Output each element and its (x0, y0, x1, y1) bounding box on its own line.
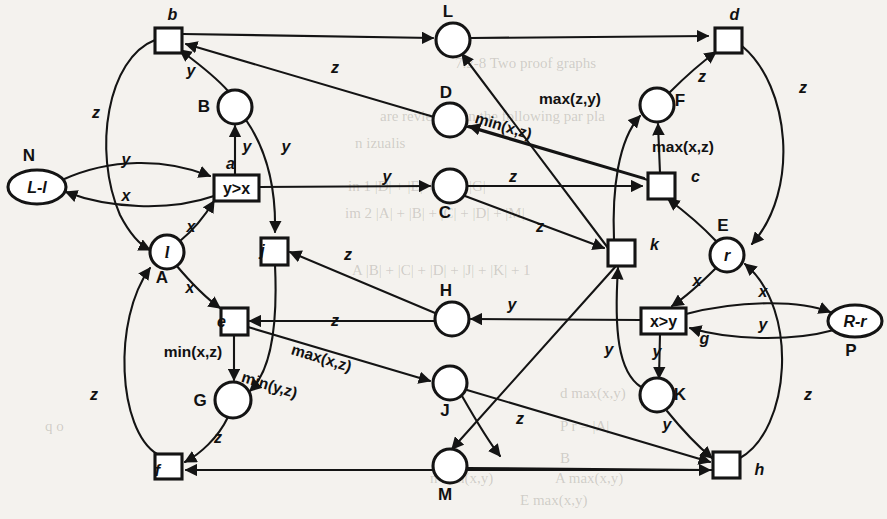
place-N[interactable]: L-lN (8, 146, 66, 204)
edge-A-to-a (180, 201, 214, 241)
place-F[interactable]: F (640, 88, 685, 122)
place-tag-L: L (443, 2, 453, 21)
arc-label: y (652, 343, 663, 360)
place-shape-K (640, 378, 674, 412)
arc-label: max(z,y) (539, 90, 601, 107)
arc-label: z (697, 68, 706, 85)
place-tag-E: E (717, 216, 728, 235)
transition-tag-e: e (217, 313, 226, 330)
arc-label: min(x,z) (164, 343, 223, 360)
transition-guard-a: y>x (223, 180, 250, 197)
edge-a-to-C (259, 186, 430, 187)
edge-a-to-N (66, 192, 214, 206)
transition-tag-j: j (258, 242, 265, 259)
place-A[interactable]: lA (150, 235, 184, 287)
edge-b-to-L (183, 34, 433, 38)
place-shape-J (433, 366, 467, 400)
place-tag-M: M (438, 485, 452, 504)
transition-guard-g: x>y (650, 313, 677, 330)
transition-tag-d: d (730, 6, 741, 23)
transition-shape-b (155, 28, 182, 53)
transition-tag-c: c (691, 168, 700, 185)
place-G[interactable]: G (193, 382, 251, 418)
place-shape-G (215, 382, 251, 418)
place-inner-label-N: L-l (27, 179, 47, 196)
place-tag-A: A (156, 268, 168, 287)
transition-a[interactable]: y>xa (214, 155, 259, 201)
transition-tag-b: b (168, 6, 178, 23)
arc-label: y (604, 341, 615, 358)
place-K[interactable]: K (640, 378, 687, 412)
place-M[interactable]: M (433, 449, 467, 504)
places-layer: L-lNBlALDCHGJMFrEKR-rP (8, 2, 882, 504)
transition-d[interactable]: d (715, 6, 742, 53)
transition-tag-h: h (755, 461, 765, 478)
place-J[interactable]: J (433, 366, 467, 420)
arc-label: z (515, 410, 524, 427)
graph-canvas: L-lNBlALDCHGJMFrEKR-rP by>xajefdckx>ygh … (0, 0, 887, 519)
place-shape-L (436, 23, 470, 57)
place-H[interactable]: H (435, 281, 469, 336)
arc-label: z (798, 79, 807, 96)
edge-k-to-L (462, 54, 608, 248)
place-L[interactable]: L (436, 2, 470, 57)
transition-shape-h (713, 452, 740, 478)
place-shape-F (640, 88, 674, 122)
arc-label: y (186, 62, 197, 79)
place-tag-P: P (845, 341, 856, 360)
place-tag-C: C (439, 203, 451, 222)
place-P[interactable]: R-rP (828, 305, 882, 360)
edge-g-to-P (686, 303, 830, 314)
arc-label: z (343, 246, 352, 263)
transition-e[interactable]: e (217, 308, 248, 335)
edge-C-to-k (465, 196, 604, 248)
place-shape-D (433, 103, 467, 137)
edge-k-to-F (614, 116, 640, 240)
place-D[interactable]: D (433, 83, 467, 137)
arc-label: max(x,z) (289, 341, 353, 375)
edge-L-to-d (471, 36, 708, 38)
arc-label: x (692, 272, 703, 289)
arc-label: x (186, 218, 197, 235)
arc-label: z (330, 312, 339, 329)
arc-label: y (382, 168, 393, 185)
arc-label: y (662, 416, 673, 433)
place-inner-label-A: l (165, 243, 170, 262)
place-tag-F: F (675, 91, 685, 110)
transition-shape-k (608, 240, 635, 266)
transition-tag-g: g (699, 330, 710, 347)
arc-label: z (803, 386, 812, 403)
transition-f[interactable]: f (155, 454, 182, 479)
arc-label: x (185, 279, 196, 296)
arc-label: y (242, 138, 253, 155)
transition-c[interactable]: c (648, 168, 700, 199)
transition-tag-a: a (226, 155, 235, 172)
place-inner-label-E: r (724, 247, 731, 264)
place-tag-G: G (193, 391, 206, 410)
transition-j[interactable]: j (258, 238, 288, 265)
edge-H-to-j (290, 252, 435, 313)
edge-d-to-E (742, 46, 783, 244)
edge-g-to-H (471, 319, 641, 320)
transition-tag-k: k (650, 236, 660, 253)
place-C[interactable]: C (433, 169, 467, 222)
edge-b-to-A (106, 40, 155, 250)
transition-h[interactable]: h (713, 452, 765, 478)
place-tag-B: B (198, 97, 210, 116)
place-tag-K: K (674, 385, 687, 404)
transition-k[interactable]: k (608, 236, 660, 266)
transition-g[interactable]: x>yg (641, 308, 710, 347)
place-B[interactable]: B (198, 90, 252, 124)
place-E[interactable]: rE (710, 216, 744, 272)
place-tag-J: J (440, 401, 449, 420)
edge-E-to-c (668, 199, 716, 241)
edge-f-to-A (124, 268, 157, 454)
arc-label: y (758, 316, 769, 333)
place-tag-N: N (23, 146, 35, 165)
edge-A-to-e (176, 265, 220, 308)
transition-b[interactable]: b (155, 6, 182, 53)
arc-label: y (507, 296, 518, 313)
transition-shape-d (715, 28, 742, 53)
arc-label: z (535, 218, 544, 235)
arc-label: max(x,z) (652, 138, 714, 155)
